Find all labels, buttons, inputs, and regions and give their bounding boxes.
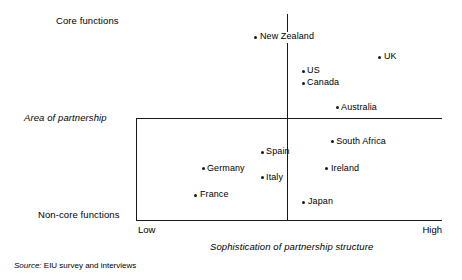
data-point-marker bbox=[325, 167, 328, 170]
data-point-marker bbox=[261, 151, 264, 154]
x-axis-tick-high: High bbox=[414, 224, 442, 235]
data-point-label: UK bbox=[384, 51, 397, 62]
source-text: EIU survey and interviews bbox=[42, 261, 137, 270]
scatter-chart: Core functions Area of partnership Non-c… bbox=[0, 0, 462, 280]
source-prefix: Source: bbox=[14, 261, 42, 270]
data-point-label: France bbox=[200, 189, 229, 200]
data-point-label: Spain bbox=[266, 146, 290, 157]
x-axis-title: Sophistication of partnership structure bbox=[210, 241, 373, 252]
data-point-marker bbox=[202, 167, 205, 170]
vertical-axis-top-segment bbox=[287, 14, 288, 32]
data-point-marker bbox=[302, 70, 305, 73]
y-axis-label-core-functions: Core functions bbox=[56, 15, 119, 26]
data-point-marker bbox=[261, 176, 264, 179]
horizontal-midline-axis bbox=[136, 118, 442, 119]
source-note: Source: EIU survey and interviews bbox=[14, 261, 136, 271]
data-point-label: Germany bbox=[207, 163, 245, 174]
data-point-label: Italy bbox=[266, 172, 283, 183]
y-axis-title-area-of-partnership: Area of partnership bbox=[24, 112, 107, 123]
data-point-label: US bbox=[307, 65, 320, 76]
data-point-label: Canada bbox=[307, 77, 339, 88]
data-point-label: South Africa bbox=[336, 136, 386, 147]
data-point-marker bbox=[302, 201, 305, 204]
x-axis-tick-low: Low bbox=[138, 224, 155, 235]
data-point-marker bbox=[331, 140, 334, 143]
data-point-marker bbox=[378, 56, 381, 59]
horizontal-bottom-axis bbox=[136, 220, 442, 221]
data-point-label: Japan bbox=[308, 196, 333, 207]
vertical-axis-main-segment bbox=[287, 43, 288, 221]
y-axis-label-non-core-functions: Non-core functions bbox=[38, 209, 120, 220]
data-point-label: Ireland bbox=[331, 163, 359, 174]
data-point-label: Australia bbox=[341, 102, 377, 113]
data-point-marker bbox=[302, 82, 305, 85]
left-quadrant-border bbox=[136, 118, 137, 221]
data-point-marker bbox=[194, 194, 197, 197]
data-point-marker bbox=[254, 36, 257, 39]
data-point-marker bbox=[336, 106, 339, 109]
data-point-label: New Zealand bbox=[260, 31, 314, 42]
